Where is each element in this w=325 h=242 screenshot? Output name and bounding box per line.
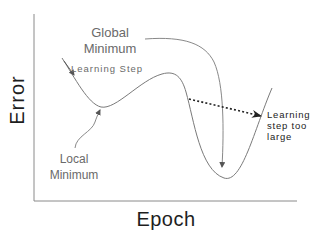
x-axis-title: Epoch [136, 208, 195, 230]
learning-step-label: Learning Step [71, 63, 143, 74]
global-minimum-label-line1: Global [91, 25, 129, 40]
local-minimum-leader [75, 110, 100, 148]
step-too-large-label-line2: step too [267, 120, 307, 131]
global-minimum-leader [145, 38, 223, 167]
step-too-large-label-line1: Learning [267, 109, 310, 120]
step-too-large-label-line3: large [267, 131, 292, 142]
global-minimum-label-line2: Minimum [84, 41, 137, 56]
y-axis-title: Error [6, 75, 28, 124]
local-minimum-label-line2: Minimum [50, 168, 99, 182]
error-epoch-diagram: Global Minimum Learning Step Local Minim… [0, 0, 325, 242]
step-too-large-arrow [189, 99, 261, 116]
error-curve [62, 58, 272, 178]
local-minimum-label-line1: Local [60, 152, 89, 166]
